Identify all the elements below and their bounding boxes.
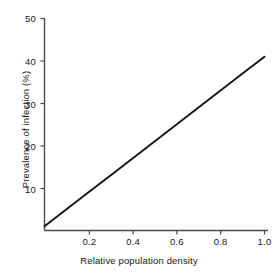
y-tick-label-50: 50 <box>2 13 36 24</box>
data-series-line <box>45 57 265 227</box>
x-tick-label-0-4: 0.4 <box>126 236 140 247</box>
x-tick-label-0-6: 0.6 <box>170 236 184 247</box>
x-tick-label-1-0: 1.0 <box>258 236 272 247</box>
x-tick-label-0-2: 0.2 <box>82 236 96 247</box>
x-tick-label-0-8: 0.8 <box>214 236 228 247</box>
x-axis-title: Relative population density <box>0 255 278 266</box>
plot-canvas <box>0 0 278 274</box>
chart-figure: 50 40 30 20 10 0.2 0.4 0.6 0.8 1.0 Preva… <box>0 0 278 274</box>
y-axis-title: Prevalence of infection (%) <box>20 45 31 215</box>
